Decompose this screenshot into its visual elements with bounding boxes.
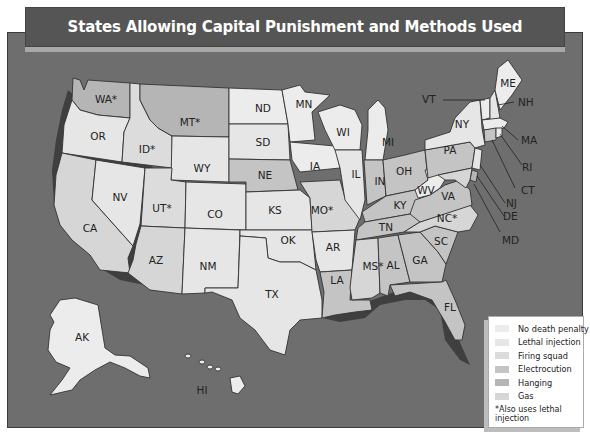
label-nm: NM bbox=[200, 260, 217, 272]
legend: No death penalty Lethal injection Firing… bbox=[488, 316, 584, 428]
label-ca: CA bbox=[83, 222, 98, 234]
label-va: VA bbox=[441, 190, 456, 202]
state-ak[interactable] bbox=[48, 298, 150, 395]
label-tx: TX bbox=[264, 288, 279, 300]
label-wa: WA* bbox=[95, 93, 117, 105]
legend-item-firing: Firing squad bbox=[495, 349, 579, 362]
swatch-hanging bbox=[495, 379, 509, 386]
label-ga: GA bbox=[412, 254, 428, 266]
label-nd: ND bbox=[255, 102, 271, 114]
label-wy: WY bbox=[194, 162, 211, 174]
label-hi: HI bbox=[197, 384, 208, 396]
label-ak: AK bbox=[75, 331, 90, 343]
label-ia: IA bbox=[310, 160, 321, 172]
state-ri[interactable] bbox=[496, 128, 502, 138]
label-tn: TN bbox=[378, 221, 393, 233]
title-bar: States Allowing Capital Punishment and M… bbox=[25, 7, 565, 47]
label-ms: MS* bbox=[363, 260, 384, 272]
label-oh: OH bbox=[396, 165, 412, 177]
legend-item-lethal: Lethal injection bbox=[495, 336, 579, 349]
label-nv: NV bbox=[112, 191, 128, 203]
label-pa: PA bbox=[444, 144, 458, 156]
label-me: ME bbox=[500, 77, 516, 89]
label-de: DE bbox=[503, 210, 518, 222]
label-sd: SD bbox=[256, 136, 271, 148]
label-la: LA bbox=[330, 274, 344, 286]
label-ma: MA bbox=[521, 134, 538, 146]
label-nc: NC* bbox=[437, 212, 457, 224]
state-hi[interactable] bbox=[185, 354, 245, 394]
label-ky: KY bbox=[394, 199, 408, 211]
swatch-firing bbox=[495, 352, 509, 359]
label-il: IL bbox=[352, 168, 361, 180]
label-ut: UT* bbox=[152, 202, 171, 214]
label-in: IN bbox=[375, 175, 386, 187]
label-mo: MO* bbox=[311, 204, 334, 216]
state-co[interactable] bbox=[185, 182, 246, 230]
label-co: CO bbox=[207, 208, 223, 220]
legend-item-electro: Electrocution bbox=[495, 363, 579, 376]
state-wy[interactable] bbox=[171, 136, 229, 182]
legend-note: *Also uses lethal injection bbox=[495, 405, 579, 423]
legend-item-gas: Gas bbox=[495, 390, 579, 403]
label-wv: WV bbox=[417, 184, 435, 196]
label-ny: NY bbox=[455, 118, 470, 130]
label-mi: MI bbox=[382, 136, 394, 148]
label-ks: KS bbox=[268, 204, 282, 216]
swatch-electro bbox=[495, 366, 509, 373]
label-ar: AR bbox=[326, 241, 340, 253]
label-nh: NH bbox=[518, 96, 534, 108]
label-fl: FL bbox=[444, 301, 456, 313]
label-sc: SC bbox=[434, 235, 448, 247]
label-mn: MN bbox=[296, 98, 313, 110]
map-title: States Allowing Capital Punishment and M… bbox=[68, 18, 523, 36]
label-nj: NJ bbox=[506, 197, 517, 209]
label-md: MD bbox=[502, 234, 519, 246]
state-ct[interactable] bbox=[484, 128, 496, 142]
label-ri: RI bbox=[522, 161, 532, 173]
legend-item-hanging: Hanging bbox=[495, 376, 579, 389]
label-ct: CT bbox=[521, 184, 535, 196]
label-wi: WI bbox=[336, 126, 349, 138]
state-vt[interactable] bbox=[480, 98, 490, 120]
label-ne: NE bbox=[258, 169, 273, 181]
label-id: ID* bbox=[139, 143, 155, 155]
label-mt: MT* bbox=[180, 116, 201, 128]
swatch-gas bbox=[495, 393, 509, 400]
state-mi[interactable] bbox=[365, 100, 388, 160]
swatch-none bbox=[495, 325, 509, 332]
label-al: AL bbox=[386, 259, 399, 271]
label-or: OR bbox=[90, 130, 106, 142]
label-az: AZ bbox=[149, 254, 163, 266]
label-vt: VT bbox=[422, 93, 436, 105]
legend-item-none: No death penalty bbox=[495, 322, 579, 335]
swatch-lethal bbox=[495, 339, 509, 346]
label-ok: OK bbox=[280, 234, 296, 246]
